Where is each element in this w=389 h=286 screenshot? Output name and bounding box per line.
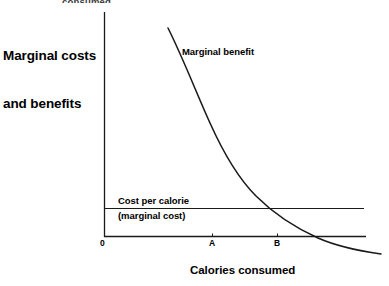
x-tick-label-origin: 0 [100,238,105,248]
x-tick-label-b: B [274,238,280,248]
cost-per-calorie-label: Cost per calorie [118,195,189,206]
clipped-top-caption: consumed [62,0,111,3]
marginal-benefit-curve [168,28,381,254]
y-axis-title: Marginal costs and benefits [3,16,96,143]
marginal-cost-label: (marginal cost) [118,210,185,221]
x-tick-label-a: A [209,238,215,248]
x-axis-title: Calories consumed [190,264,295,278]
marginal-benefit-curve-label: Marginal benefit [182,46,254,57]
y-axis-title-line-2: and benefits [3,96,96,112]
economics-figure: consumed Marginal costs and benefits Mar… [0,0,389,286]
y-axis-title-line-1: Marginal costs [3,48,96,64]
